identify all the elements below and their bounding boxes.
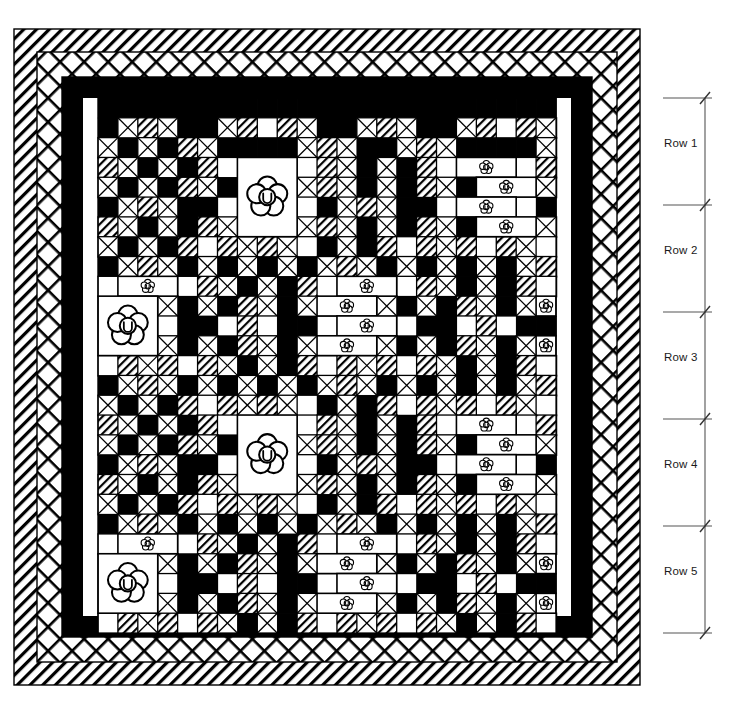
solid-black-patch <box>118 138 139 158</box>
solid-black-patch <box>118 237 139 257</box>
plain-white-patch <box>98 356 119 376</box>
solid-black-patch <box>536 455 557 475</box>
diagonal-stripe-patch <box>257 494 278 514</box>
plain-white-patch <box>456 316 477 336</box>
solid-black-patch <box>277 534 298 554</box>
plain-white-patch <box>217 316 238 336</box>
solid-black-patch <box>357 217 378 237</box>
plain-white-patch <box>317 534 338 554</box>
solid-black-patch <box>456 435 477 455</box>
solid-black-patch <box>237 98 258 118</box>
solid-black-patch <box>496 276 517 296</box>
solid-black-patch <box>297 316 318 336</box>
solid-black-patch <box>496 375 517 395</box>
diagonal-stripe-patch <box>237 296 258 316</box>
solid-black-patch <box>237 356 258 376</box>
plain-white-patch <box>198 395 219 415</box>
diagonal-stripe-patch <box>98 474 119 494</box>
solid-black-patch <box>277 276 298 296</box>
plain-white-patch <box>437 415 458 435</box>
solid-black-patch <box>257 98 278 118</box>
diagonal-stripe-patch <box>417 157 438 177</box>
solid-black-patch <box>138 98 159 118</box>
solid-black-patch <box>178 316 199 336</box>
diagonal-stripe-patch <box>417 217 438 237</box>
plain-white-patch <box>297 415 318 435</box>
solid-black-patch <box>217 296 238 316</box>
solid-black-patch <box>98 257 119 277</box>
plain-white-patch <box>496 118 517 138</box>
plain-white-patch <box>496 316 517 336</box>
solid-black-patch <box>496 514 517 534</box>
solid-black-patch <box>158 138 179 158</box>
diagonal-stripe-patch <box>257 395 278 415</box>
solid-black-patch <box>417 257 438 277</box>
quilt-diagram-svg <box>0 0 751 716</box>
diagonal-stripe-patch <box>516 276 537 296</box>
solid-black-patch <box>178 257 199 277</box>
diagonal-stripe-patch <box>237 316 258 336</box>
plain-white-patch <box>257 118 278 138</box>
solid-black-patch <box>158 435 179 455</box>
diagonal-stripe-patch <box>456 494 477 514</box>
diagonal-stripe-patch <box>297 613 318 633</box>
diagonal-stripe-patch <box>317 415 338 435</box>
solid-black-patch <box>417 118 438 138</box>
plain-white-patch <box>257 574 278 594</box>
diagonal-stripe-patch <box>198 415 219 435</box>
solid-black-patch <box>317 98 338 118</box>
solid-black-patch <box>178 197 199 217</box>
solid-black-patch <box>178 98 199 118</box>
plain-white-patch <box>516 157 537 177</box>
plain-white-patch <box>476 237 497 257</box>
solid-black-patch <box>178 455 199 475</box>
plain-white-patch <box>476 395 497 415</box>
solid-black-patch <box>277 336 298 356</box>
diagonal-stripe-patch <box>536 257 557 277</box>
solid-black-patch <box>178 157 199 177</box>
solid-black-patch <box>476 98 497 118</box>
plain-white-patch <box>297 395 318 415</box>
solid-black-patch <box>158 494 179 514</box>
plain-white-patch <box>397 356 418 376</box>
solid-black-patch <box>456 613 477 633</box>
solid-black-patch <box>178 574 199 594</box>
plain-white-patch <box>536 494 557 514</box>
diagonal-stripe-patch <box>118 356 139 376</box>
diagonal-stripe-patch <box>417 474 438 494</box>
solid-black-patch <box>377 375 398 395</box>
solid-black-patch <box>496 138 517 158</box>
solid-black-patch <box>98 375 119 395</box>
diagonal-stripe-patch <box>536 375 557 395</box>
diagonal-stripe-patch <box>257 237 278 257</box>
diagonal-stripe-patch <box>237 336 258 356</box>
plain-white-patch <box>317 574 338 594</box>
solid-black-patch <box>118 177 139 197</box>
plain-white-patch <box>217 574 238 594</box>
diagonal-stripe-patch <box>317 138 338 158</box>
solid-black-patch <box>158 395 179 415</box>
solid-black-patch <box>536 316 557 336</box>
plain-white-patch <box>536 395 557 415</box>
plain-white-patch <box>317 316 338 336</box>
solid-black-patch <box>536 574 557 594</box>
solid-black-patch <box>357 177 378 197</box>
diagonal-stripe-patch <box>337 257 358 277</box>
solid-black-patch <box>277 593 298 613</box>
diagonal-stripe-patch <box>138 514 159 534</box>
plain-white-patch <box>217 455 238 475</box>
plain-white-patch <box>178 613 199 633</box>
diagonal-stripe-patch <box>456 336 477 356</box>
diagonal-stripe-patch <box>377 494 398 514</box>
solid-black-patch <box>496 356 517 376</box>
solid-black-patch <box>397 474 418 494</box>
row-label-3: Row 3 <box>664 351 698 363</box>
solid-black-patch <box>536 98 557 118</box>
diagonal-stripe-patch <box>178 237 199 257</box>
diagonal-stripe-patch <box>536 157 557 177</box>
solid-black-patch <box>297 574 318 594</box>
solid-black-patch <box>456 177 477 197</box>
solid-black-patch <box>257 375 278 395</box>
solid-black-patch <box>277 356 298 376</box>
diagonal-stripe-patch <box>337 613 358 633</box>
